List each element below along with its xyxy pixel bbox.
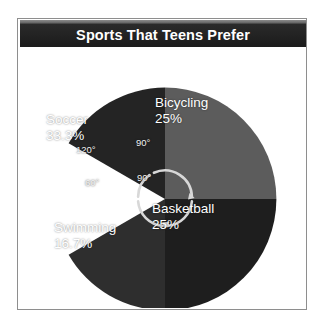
slice-percent-soccer: 33.3%	[46, 128, 88, 144]
pie-chart-svg	[19, 48, 305, 308]
pie-slice-swimming[interactable]	[69, 199, 165, 308]
angle-label-bicycling: 90°	[136, 137, 150, 148]
slice-label-soccer: Soccer 33.3%	[46, 112, 88, 144]
angle-label-soccer: 120°	[76, 144, 96, 155]
slice-name-bicycling: Bicycling	[155, 95, 208, 110]
pie-chart: Soccer 33.3% Bicycling 25% Basketball 25…	[19, 48, 305, 308]
title-accent-stripe	[20, 20, 306, 24]
slice-label-basketball: Basketball 25%	[152, 201, 214, 233]
slice-percent-bicycling: 25%	[155, 111, 208, 127]
slice-name-swimming: Swimming	[54, 220, 116, 235]
angle-label-swimming: 60°	[85, 177, 99, 188]
slice-name-soccer: Soccer	[46, 112, 88, 127]
slice-name-basketball: Basketball	[152, 201, 214, 216]
slice-percent-basketball: 25%	[152, 217, 214, 233]
slice-label-bicycling: Bicycling 25%	[155, 95, 208, 127]
pie-chart-figure-page: { "figure": { "title": "Sports That Teen…	[0, 0, 325, 326]
slice-label-swimming: Swimming 16.7%	[54, 220, 116, 252]
page-title: Sports That Teens Prefer	[76, 27, 250, 43]
figure-frame: Sports That Teens Prefer	[17, 18, 307, 310]
angle-label-basketball: 90°	[137, 172, 151, 183]
chart-title-bar: Sports That Teens Prefer	[20, 20, 306, 47]
slice-percent-swimming: 16.7%	[54, 236, 116, 252]
